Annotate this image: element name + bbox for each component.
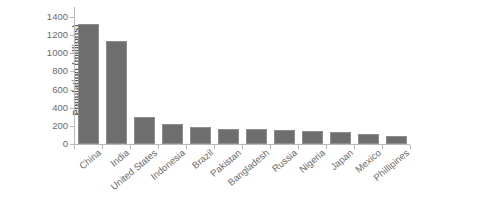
bar-brazil	[190, 127, 211, 144]
y-tick-label: 1200	[47, 29, 68, 40]
bar-china	[78, 24, 99, 144]
bar-chart-figure: Population (millions) 020040060080010001…	[0, 0, 490, 207]
y-tick-600: 600	[74, 90, 75, 91]
bar-indonesia	[162, 124, 183, 144]
y-tick-200: 200	[74, 126, 75, 127]
x-label-japan: Japan	[328, 147, 355, 172]
y-tick-label: 0	[63, 138, 68, 149]
bar-bangladesh	[246, 129, 267, 144]
x-label-china: China	[77, 147, 103, 171]
y-tick-mark	[70, 71, 74, 72]
y-tick-label: 800	[52, 65, 68, 76]
bar-pakistan	[218, 129, 239, 144]
y-tick-mark	[70, 17, 74, 18]
y-tick-label: 1400	[47, 11, 68, 22]
y-tick-1400: 1400	[74, 17, 75, 18]
y-tick-label: 1000	[47, 47, 68, 58]
bar-phillipines	[386, 136, 407, 144]
x-tick-mark	[410, 145, 411, 149]
y-tick-label: 400	[52, 102, 68, 113]
y-tick-mark	[70, 35, 74, 36]
x-label-india: India	[108, 147, 131, 169]
y-tick-400: 400	[74, 108, 75, 109]
y-tick-mark	[70, 108, 74, 109]
bar-mexico	[358, 134, 379, 144]
plot-area: 0200400600800100012001400	[74, 12, 410, 145]
bar-united-states	[134, 117, 155, 144]
bar-japan	[330, 132, 351, 144]
y-tick-1200: 1200	[74, 35, 75, 36]
y-tick-label: 600	[52, 84, 68, 95]
x-label-russia: Russia	[270, 147, 299, 174]
y-tick-mark	[70, 126, 74, 127]
bar-india	[106, 41, 127, 144]
x-label-nigeria: Nigeria	[297, 147, 327, 175]
y-tick-1000: 1000	[74, 53, 75, 54]
bar-nigeria	[302, 131, 323, 144]
bar-russia	[274, 130, 295, 144]
x-axis-labels: ChinaIndiaUnited StatesIndonesiaBrazilPa…	[74, 147, 410, 207]
y-tick-mark	[70, 53, 74, 54]
y-tick-mark	[70, 90, 74, 91]
y-tick-800: 800	[74, 71, 75, 72]
y-tick-label: 200	[52, 120, 68, 131]
y-axis-line	[74, 7, 75, 145]
